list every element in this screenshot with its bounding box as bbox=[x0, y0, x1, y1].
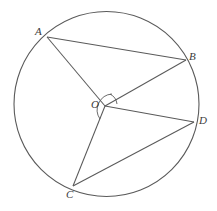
segment-AB bbox=[47, 37, 186, 60]
vertex-label-a: A bbox=[35, 26, 42, 37]
segment-OC bbox=[73, 106, 105, 186]
geometry-canvas bbox=[0, 0, 217, 211]
vertex-label-b: B bbox=[189, 51, 196, 62]
vertex-label-d: D bbox=[199, 115, 207, 126]
segment-AO bbox=[47, 37, 105, 106]
segment-CD bbox=[73, 122, 194, 186]
vertex-label-c: C bbox=[66, 189, 73, 200]
vertex-label-o: O bbox=[91, 99, 99, 110]
segment-OD bbox=[105, 106, 194, 122]
geometry-figure: A B C D O bbox=[0, 0, 217, 211]
segment-OB bbox=[105, 60, 186, 106]
